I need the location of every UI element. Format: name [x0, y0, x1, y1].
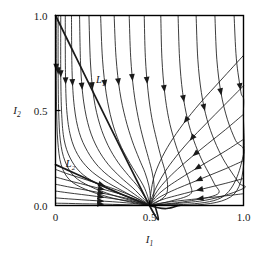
streamline — [150, 16, 246, 206]
flow-arrowhead — [161, 85, 168, 93]
flow-arrowhead — [195, 186, 203, 193]
figure-container: 00.51.00.00.51.0 L1L2 I1I2 — [0, 0, 266, 257]
x-tick-label-1: 0.5 — [143, 211, 157, 223]
x-tick-label-0: 0 — [53, 211, 59, 223]
streamline — [61, 16, 150, 206]
axis-titles: I1I2 — [12, 104, 153, 249]
streamline — [150, 86, 244, 206]
flow-arrowhead — [193, 164, 202, 173]
streamline — [89, 16, 150, 206]
flow-arrowhead — [129, 74, 136, 82]
flow-arrowhead — [194, 176, 203, 184]
y-tick-label-2: 1.0 — [34, 10, 48, 22]
streamline — [150, 114, 244, 205]
flow-arrowhead — [63, 77, 69, 84]
streamline — [150, 16, 220, 206]
flow-arrowhead — [200, 103, 207, 111]
streamline — [144, 16, 167, 206]
separatrix-group — [56, 16, 180, 220]
y-tick-label-0: 0.0 — [34, 200, 48, 212]
y-tick-label-1: 0.5 — [34, 105, 48, 117]
streamline — [101, 16, 150, 206]
y-axis-title: I2 — [12, 104, 21, 119]
flow-arrowhead — [180, 95, 187, 103]
flow-arrowhead — [217, 88, 224, 96]
separatrix-l1 — [56, 16, 159, 220]
x-tick-label-2: 1.0 — [237, 211, 251, 223]
flow-arrowhead — [69, 79, 75, 87]
flow-arrowhead — [58, 70, 64, 77]
flow-arrowhead — [144, 77, 150, 85]
flow-arrowhead — [79, 83, 86, 91]
phase-portrait-plot: 00.51.00.00.51.0 L1L2 I1I2 — [0, 0, 266, 257]
streamlines-group — [53, 16, 245, 208]
x-axis-title: I1 — [145, 233, 153, 248]
